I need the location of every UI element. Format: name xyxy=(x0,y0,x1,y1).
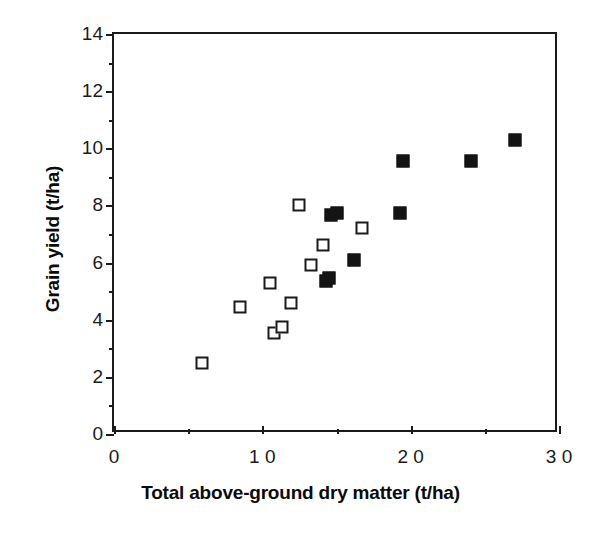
x-tick-minor xyxy=(337,429,339,434)
y-tick-major xyxy=(106,320,114,322)
x-tick-major xyxy=(559,426,561,434)
y-tick-minor xyxy=(109,120,114,122)
y-tick-major xyxy=(106,148,114,150)
y-tick-label: 6 xyxy=(92,252,103,274)
y-tick-major xyxy=(106,91,114,93)
x-tick-label: 0 xyxy=(109,446,120,468)
y-tick-minor xyxy=(109,177,114,179)
x-tick-major xyxy=(411,426,413,434)
plot-area: 02468101214 01 02 03 0 xyxy=(112,32,557,432)
y-tick-minor xyxy=(109,348,114,350)
x-tick-major xyxy=(262,426,264,434)
data-point-filled-square xyxy=(394,206,407,219)
data-point-filled-square xyxy=(397,155,410,168)
x-axis-title: Total above-ground dry matter (t/ha) xyxy=(0,482,601,504)
data-point-filled-square xyxy=(348,253,361,266)
data-point-open-square xyxy=(317,239,330,252)
x-tick-label: 1 0 xyxy=(249,446,275,468)
data-point-open-square xyxy=(195,356,208,369)
y-tick-label: 12 xyxy=(82,80,103,102)
y-tick-minor xyxy=(109,63,114,65)
y-tick-label: 8 xyxy=(92,194,103,216)
y-tick-label: 0 xyxy=(92,423,103,445)
data-point-filled-square xyxy=(323,272,336,285)
data-point-open-square xyxy=(263,276,276,289)
x-tick-minor xyxy=(485,429,487,434)
data-point-open-square xyxy=(305,259,318,272)
y-tick-major xyxy=(106,377,114,379)
y-axis-title: Grain yield (t/ha) xyxy=(42,39,64,439)
x-tick-label: 2 0 xyxy=(397,446,423,468)
x-tick-label: 3 0 xyxy=(546,446,572,468)
data-point-filled-square xyxy=(465,155,478,168)
data-point-filled-square xyxy=(508,133,521,146)
data-point-open-square xyxy=(355,222,368,235)
y-tick-minor xyxy=(109,291,114,293)
data-point-open-square xyxy=(284,296,297,309)
data-point-open-square xyxy=(293,199,306,212)
x-tick-major xyxy=(114,426,116,434)
y-tick-minor xyxy=(109,234,114,236)
y-tick-major xyxy=(106,205,114,207)
y-tick-label: 2 xyxy=(92,366,103,388)
y-tick-major xyxy=(106,434,114,436)
y-tick-major xyxy=(106,263,114,265)
y-tick-label: 14 xyxy=(82,23,103,45)
y-tick-major xyxy=(106,34,114,36)
scatter-plot-figure: Grain yield (t/ha) 02468101214 01 02 03 … xyxy=(0,0,601,533)
data-point-filled-square xyxy=(330,206,343,219)
y-tick-label: 10 xyxy=(82,137,103,159)
y-tick-minor xyxy=(109,405,114,407)
data-point-open-square xyxy=(275,320,288,333)
data-point-open-square xyxy=(234,300,247,313)
x-tick-minor xyxy=(188,429,190,434)
y-tick-label: 4 xyxy=(92,309,103,331)
